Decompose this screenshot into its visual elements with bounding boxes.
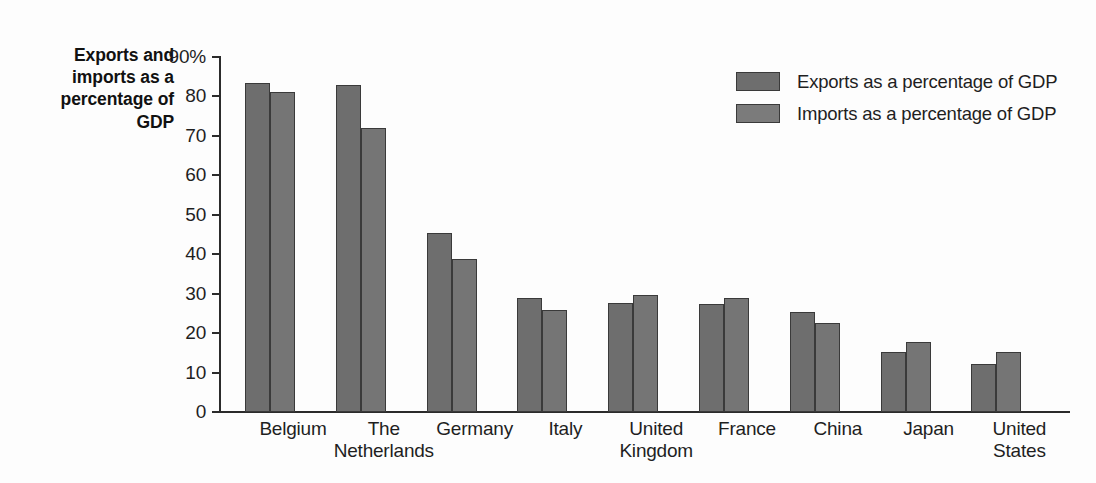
y-tick-mark — [212, 174, 221, 176]
bar-imports — [815, 323, 840, 412]
y-tick-label: 40 — [185, 244, 206, 263]
y-tick-mark — [212, 214, 221, 216]
y-tick-mark — [212, 56, 221, 58]
legend-label: Imports as a percentage of GDP — [797, 103, 1056, 125]
y-tick-label: 90% — [169, 47, 206, 66]
bar-imports — [270, 92, 295, 412]
bar-exports — [245, 83, 270, 412]
chart-figure: Exports and imports as a percentage of G… — [0, 0, 1096, 483]
bar-exports — [336, 85, 361, 412]
bar-exports — [427, 233, 452, 412]
chart-legend: Exports as a percentage of GDPImports as… — [736, 68, 1057, 132]
y-tick-label: 50 — [185, 205, 206, 224]
y-tick-label: 0 — [196, 402, 206, 421]
bar-imports — [542, 310, 567, 412]
bar-exports — [608, 303, 633, 412]
bar-imports — [724, 298, 749, 412]
y-tick-label: 10 — [185, 363, 206, 382]
y-tick-mark — [212, 372, 221, 374]
bar-imports — [906, 342, 931, 412]
y-tick-mark — [212, 253, 221, 255]
y-tick-mark — [212, 135, 221, 137]
bar-imports — [361, 128, 386, 412]
y-tick-label: 60 — [185, 165, 206, 184]
y-tick-mark — [212, 95, 221, 97]
legend-swatch-imports — [736, 104, 780, 123]
y-axis-line — [219, 57, 221, 413]
legend-swatch-exports — [736, 72, 780, 91]
bar-exports — [790, 312, 815, 412]
y-tick-label: 80 — [185, 86, 206, 105]
x-tick-label: United States — [951, 418, 1087, 463]
legend-item: Imports as a percentage of GDP — [736, 100, 1057, 127]
y-tick-label: 30 — [185, 284, 206, 303]
bar-imports — [996, 352, 1021, 412]
bar-exports — [881, 352, 906, 412]
legend-label: Exports as a percentage of GDP — [797, 71, 1057, 93]
y-tick-mark — [212, 411, 221, 413]
bar-imports — [452, 259, 477, 412]
bar-exports — [971, 364, 996, 412]
y-tick-label: 20 — [185, 323, 206, 342]
legend-item: Exports as a percentage of GDP — [736, 68, 1057, 95]
bar-exports — [517, 298, 542, 412]
bar-imports — [633, 295, 658, 412]
y-tick-mark — [212, 293, 221, 295]
y-tick-label: 70 — [185, 126, 206, 145]
bar-exports — [699, 304, 724, 412]
y-tick-mark — [212, 332, 221, 334]
